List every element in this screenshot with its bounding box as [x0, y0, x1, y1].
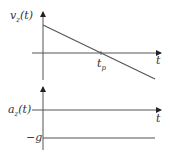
velocity-line: [43, 25, 155, 79]
acceleration-y-label: az(t): [8, 103, 31, 118]
diagram-svg: vz(t) t tp az(t) t −g: [0, 0, 170, 159]
acceleration-x-label: t: [156, 112, 161, 125]
acceleration-plot: az(t) t −g: [8, 87, 161, 150]
velocity-y-label: vz(t): [10, 9, 33, 24]
kinematics-diagram: vz(t) t tp az(t) t −g: [0, 0, 170, 159]
velocity-x-label: t: [156, 54, 161, 67]
tp-label: tp: [97, 57, 106, 72]
velocity-plot: vz(t) t tp: [10, 9, 161, 80]
minus-g-label: −g: [26, 131, 42, 144]
